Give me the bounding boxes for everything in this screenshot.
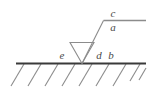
section-hatching [11,64,146,86]
label-below-reference: a [110,21,116,33]
hatch-line [139,68,146,80]
label-left-of-symbol: e [60,49,65,61]
hatch-line [11,64,24,86]
hatch-line [130,64,140,81]
hatch-line [96,64,109,86]
hatch-line [45,64,58,86]
weld-symbol-svg: c a e d b [0,0,152,97]
hatch-line [79,64,92,86]
label-right-of-symbol-outer: b [108,49,114,61]
label-right-of-symbol-inner: d [96,49,102,61]
hatch-line [28,64,41,86]
weld-symbol-diagram: c a e d b [0,0,152,97]
label-above-reference: c [111,7,116,19]
hatch-line [113,64,126,86]
hatch-line [62,64,75,86]
